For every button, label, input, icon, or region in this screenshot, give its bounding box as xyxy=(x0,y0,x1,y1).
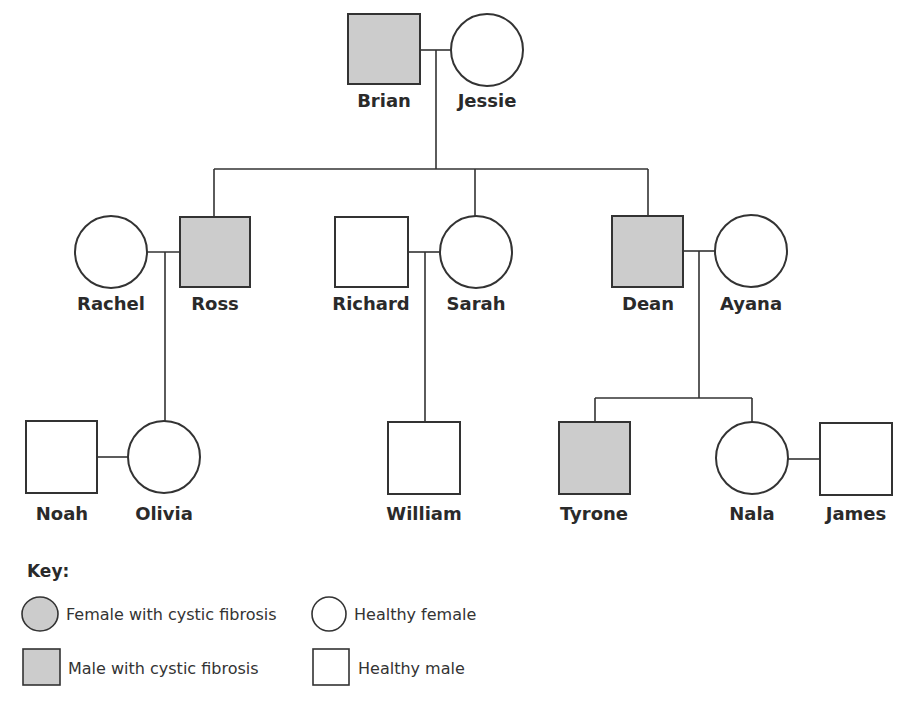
legend-item-healthy-male: Healthy male xyxy=(313,649,465,685)
healthy-female-circle-icon xyxy=(716,422,788,494)
legend: Key: Female with cystic fibrosis Healthy… xyxy=(22,561,476,685)
pedigree-diagram: Brian Jessie Rachel Ross Richard Sarah D… xyxy=(0,0,916,711)
healthy-female-circle-icon xyxy=(312,597,346,631)
person-sarah: Sarah xyxy=(440,216,512,314)
healthy-male-square-icon xyxy=(26,421,97,493)
person-label: Dean xyxy=(622,293,674,314)
affected-male-square-icon xyxy=(612,216,683,287)
healthy-male-square-icon xyxy=(313,649,349,685)
person-label: Richard xyxy=(332,293,409,314)
person-label: Nala xyxy=(729,503,775,524)
healthy-male-square-icon xyxy=(820,423,892,495)
person-label: Olivia xyxy=(135,503,193,524)
person-label: Jessie xyxy=(456,90,517,111)
affected-female-circle-icon xyxy=(22,597,58,631)
person-ayana: Ayana xyxy=(715,215,787,314)
person-dean: Dean xyxy=(612,216,683,314)
person-label: Tyrone xyxy=(560,503,628,524)
person-tyrone: Tyrone xyxy=(559,422,630,524)
legend-title: Key: xyxy=(27,561,69,581)
affected-male-square-icon xyxy=(23,649,60,685)
affected-male-square-icon xyxy=(348,14,420,84)
person-label: William xyxy=(386,503,461,524)
person-label: James xyxy=(824,503,887,524)
healthy-male-square-icon xyxy=(335,217,408,287)
person-label: Noah xyxy=(36,503,88,524)
legend-item-healthy-female: Healthy female xyxy=(312,597,476,631)
healthy-female-circle-icon xyxy=(715,215,787,287)
healthy-male-square-icon xyxy=(388,422,460,494)
person-brian: Brian xyxy=(348,14,420,111)
affected-male-square-icon xyxy=(180,217,250,287)
person-label: Ayana xyxy=(720,293,782,314)
person-label: Rachel xyxy=(77,293,145,314)
healthy-female-circle-icon xyxy=(75,216,147,288)
legend-label: Male with cystic fibrosis xyxy=(68,659,259,678)
person-jessie: Jessie xyxy=(451,14,523,111)
person-noah: Noah xyxy=(26,421,97,524)
person-label: Brian xyxy=(357,90,411,111)
legend-label: Female with cystic fibrosis xyxy=(66,605,277,624)
person-ross: Ross xyxy=(180,217,250,314)
affected-male-square-icon xyxy=(559,422,630,494)
legend-label: Healthy male xyxy=(358,659,465,678)
healthy-female-circle-icon xyxy=(128,421,200,493)
person-william: William xyxy=(386,422,461,524)
legend-item-female-cf: Female with cystic fibrosis xyxy=(22,597,277,631)
legend-label: Healthy female xyxy=(354,605,476,624)
person-rachel: Rachel xyxy=(75,216,147,314)
person-richard: Richard xyxy=(332,217,409,314)
person-label: Sarah xyxy=(447,293,506,314)
legend-item-male-cf: Male with cystic fibrosis xyxy=(23,649,259,685)
person-nala: Nala xyxy=(716,422,788,524)
healthy-female-circle-icon xyxy=(451,14,523,86)
person-james: James xyxy=(820,423,892,524)
person-olivia: Olivia xyxy=(128,421,200,524)
person-label: Ross xyxy=(191,293,239,314)
healthy-female-circle-icon xyxy=(440,216,512,288)
